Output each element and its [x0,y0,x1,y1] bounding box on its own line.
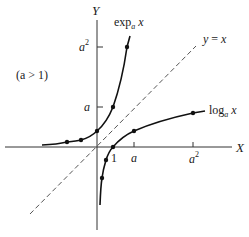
x-tick-label-1: 1 [111,151,117,165]
exp-var: x [137,15,144,29]
exp-point [95,129,99,133]
identity-lhs: y [202,32,209,46]
log-point [100,176,104,180]
exp-point [79,138,83,142]
y-tick-label-a: a [84,100,90,114]
function-diagram: Y X a a2 1 a a2 (a > 1) expax logax y=x [0,0,249,237]
exp-point [111,105,115,109]
exp-point [65,140,69,144]
y-tick-label-a2: a2 [79,38,89,54]
identity-line-label: y=x [202,32,227,46]
x-tick-label-a: a [131,151,137,165]
exp-curve [42,36,130,145]
exp-sub: a [131,22,135,31]
log-point [104,158,108,162]
log-var: x [230,103,237,117]
y-tick-a2-exp: 2 [85,38,89,47]
log-point [132,129,136,133]
exp-curve-label: expax [114,15,144,31]
log-name: log [209,103,224,117]
exp-point [125,45,129,49]
log-curve-label: logax [209,103,237,119]
condition-label: (a > 1) [16,68,48,82]
exp-name: exp [114,15,131,29]
log-sub: a [224,110,228,119]
identity-eq: = [211,32,218,46]
x-tick-a2-exp: 2 [195,150,199,159]
log-point [191,111,195,115]
x-axis-label: X [235,140,245,155]
identity-line [30,46,196,214]
x-tick-label-a2: a2 [189,150,199,166]
log-point [111,145,115,149]
identity-rhs: x [220,32,227,46]
y-axis-label: Y [92,3,101,18]
